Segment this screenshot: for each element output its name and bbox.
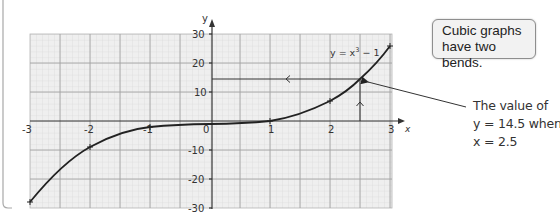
y-tick-label: -30	[188, 203, 204, 214]
x-tick-label: 0	[203, 124, 209, 135]
callout-line-2: have two bends.	[442, 39, 535, 71]
x-tick-label: 1	[268, 124, 274, 135]
y-tick-label: -10	[188, 145, 204, 156]
y-tick-label: -20	[188, 174, 204, 185]
x-tick-label: -2	[84, 124, 94, 135]
y-axis-arrow-icon	[209, 19, 215, 27]
annotation-line-1: The value of	[473, 97, 560, 115]
x-axis-label: x	[404, 124, 411, 134]
callout-box: Cubic graphs have two bends.	[432, 19, 536, 59]
y-tick-label: 30	[192, 29, 205, 40]
page-edge-bracket	[3, 0, 12, 208]
figure: y x -3 -2 -1 0 1 2 3 30 20 10 -10 -20 -3…	[0, 0, 560, 221]
y-axis-label: y	[202, 13, 208, 24]
curve-label: y = x3 − 1	[330, 46, 379, 58]
annotation-line-3: x = 2.5	[473, 133, 560, 151]
x-tick-label: 3	[388, 124, 394, 135]
reading-annotation: The value of y = 14.5 when x = 2.5	[473, 97, 560, 151]
annotation-line-2: y = 14.5 when	[473, 115, 560, 133]
x-tick-label: -3	[22, 124, 32, 135]
callout-line-1: Cubic graphs	[442, 23, 535, 39]
x-tick-label: 2	[328, 124, 334, 135]
y-tick-label: 10	[194, 87, 207, 98]
y-tick-label: 20	[192, 58, 205, 69]
x-tick-label: -1	[143, 124, 153, 135]
x-axis-arrow-icon	[398, 118, 405, 124]
